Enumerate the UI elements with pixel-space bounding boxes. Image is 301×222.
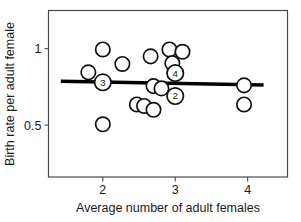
data-point-count-label: 3 (100, 77, 105, 88)
scatter-plot-figure: 10.5 234 342 Average number of adult fem… (0, 0, 301, 222)
x-tick-label: 3 (172, 183, 179, 197)
data-point-count-label: 4 (173, 68, 178, 79)
data-point (81, 65, 95, 79)
data-point (237, 78, 251, 92)
data-point (96, 42, 110, 56)
data-point (154, 81, 168, 95)
x-tick-label: 4 (244, 183, 251, 197)
data-point (237, 97, 251, 111)
data-point (175, 45, 189, 59)
x-axis-label: Average number of adult females (76, 201, 260, 215)
y-axis-label: Birth rate per adult female (3, 22, 17, 166)
y-tick-label: 0.5 (24, 119, 41, 133)
y-tick-label: 1 (35, 42, 42, 56)
data-point (162, 42, 176, 56)
data-point-count-label: 2 (173, 90, 178, 101)
chart-canvas: 10.5 234 342 Average number of adult fem… (0, 0, 301, 222)
data-point (146, 103, 160, 117)
data-point (115, 57, 129, 71)
data-point (96, 117, 110, 131)
data-point (143, 49, 157, 63)
x-tick-label: 2 (99, 183, 106, 197)
